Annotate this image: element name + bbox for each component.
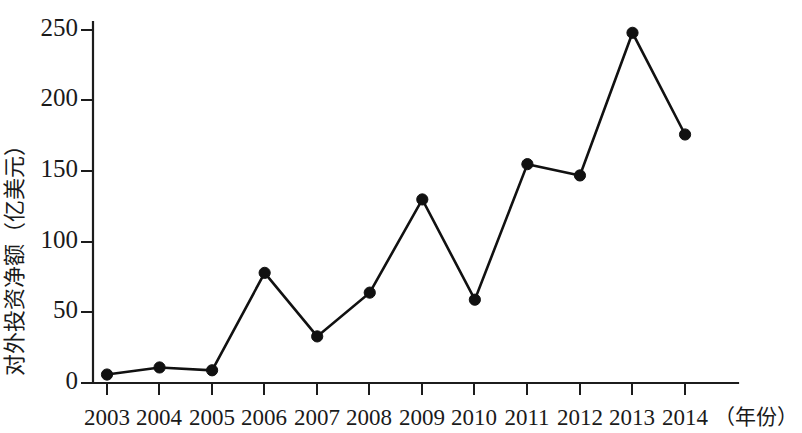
line-chart-figure: 对外投资净额（亿美元） 0 50 100 150 200 250 <box>0 0 802 433</box>
data-point-2007 <box>312 331 323 342</box>
data-point-2004 <box>154 362 165 373</box>
x-tick-label-2003: 2003 <box>84 405 130 430</box>
x-axis-title: （年份） <box>714 405 798 428</box>
data-point-2006 <box>259 267 270 278</box>
data-point-2011 <box>522 159 533 170</box>
x-tick-label-2007: 2007 <box>294 405 340 430</box>
data-point-2012 <box>574 170 585 181</box>
data-point-2009 <box>417 194 428 205</box>
y-tick-label-0: 0 <box>66 367 79 394</box>
chart-background <box>0 0 802 433</box>
chart-canvas: 对外投资净额（亿美元） 0 50 100 150 200 250 <box>0 0 802 433</box>
y-tick-label-50: 50 <box>53 296 78 323</box>
y-axis-title: 对外投资净额（亿美元） <box>2 134 27 376</box>
x-tick-label-2014: 2014 <box>662 405 709 430</box>
data-point-2008 <box>364 287 375 298</box>
x-tick-label-2010: 2010 <box>451 405 497 430</box>
data-point-2013 <box>627 27 638 38</box>
data-point-2003 <box>101 369 112 380</box>
y-tick-label-100: 100 <box>41 226 79 253</box>
y-tick-label-250: 250 <box>41 14 79 41</box>
data-point-2014 <box>679 129 690 140</box>
x-tick-label-2005: 2005 <box>189 405 235 430</box>
data-point-2005 <box>207 365 218 376</box>
data-point-2010 <box>469 294 480 305</box>
x-tick-label-2004: 2004 <box>136 405 183 430</box>
x-tick-label-2006: 2006 <box>241 405 287 430</box>
x-tick-label-2011: 2011 <box>504 405 549 430</box>
x-tick-label-2012: 2012 <box>557 405 603 430</box>
x-tick-label-2013: 2013 <box>609 405 655 430</box>
y-tick-label-150: 150 <box>41 155 79 182</box>
x-tick-label-2009: 2009 <box>399 405 445 430</box>
x-tick-label-2008: 2008 <box>346 405 392 430</box>
y-tick-label-200: 200 <box>41 84 79 111</box>
